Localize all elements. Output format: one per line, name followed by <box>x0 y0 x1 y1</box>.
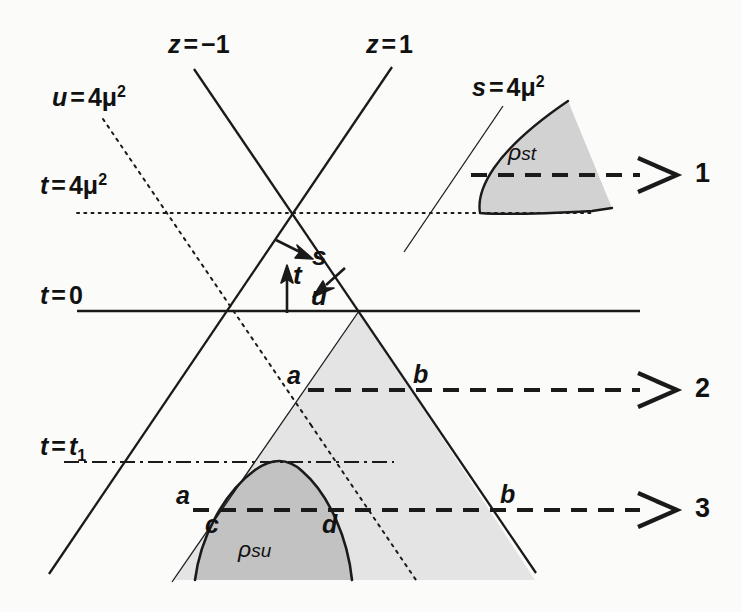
point-label-c-3: c <box>205 512 219 537</box>
path-arrow-3 <box>638 493 677 527</box>
label-rho-su: ρsu <box>238 538 271 561</box>
path-arrow-2 <box>638 373 677 407</box>
path-arrow-1 <box>638 158 677 192</box>
label-t-zero: t=0 <box>40 283 83 308</box>
mandelstam-diagram: u=4μ2 t=4μ2 t=0 t=t1 s=4μ2 z=−1 z=1 s t … <box>0 0 742 612</box>
label-z-plus-one: z=1 <box>366 32 413 57</box>
line-u-threshold <box>103 119 311 425</box>
label-t-one: t=t1 <box>40 434 86 464</box>
label-invariant-t: t <box>293 262 302 288</box>
point-label-a-2: a <box>287 363 301 388</box>
point-label-b-2: b <box>413 362 428 387</box>
point-label-b-3: b <box>500 482 515 507</box>
label-invariant-u: u <box>311 283 327 309</box>
arrow-t <box>281 265 293 313</box>
label-path-1: 1 <box>695 160 710 187</box>
label-path-3: 3 <box>695 495 710 522</box>
label-invariant-s: s <box>312 243 326 269</box>
point-label-a-3: a <box>176 483 190 508</box>
label-u-threshold: u=4μ2 <box>52 84 126 110</box>
label-path-2: 2 <box>695 375 710 402</box>
arrow-s <box>276 240 313 259</box>
label-t-threshold: t=4μ2 <box>40 172 107 198</box>
label-rho-st: ρst <box>508 141 536 164</box>
label-z-minus-one: z=−1 <box>168 32 230 57</box>
label-s-threshold: s=4μ2 <box>472 74 545 100</box>
point-label-d-3: d <box>322 512 337 537</box>
